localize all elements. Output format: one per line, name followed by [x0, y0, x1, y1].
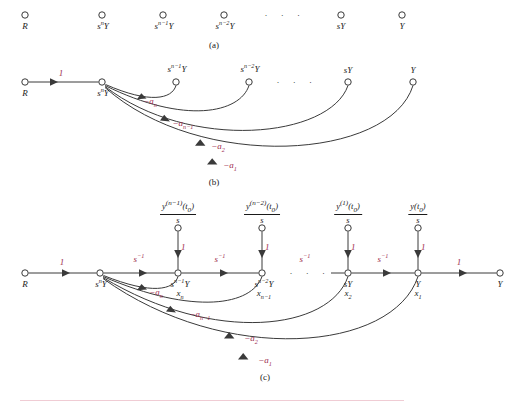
node-c-snY — [97, 270, 103, 276]
node-b-snY — [99, 79, 105, 85]
gain-c-fwd-5: s−1 — [378, 255, 389, 264]
gain-c-fwd-1: 1 — [60, 258, 65, 267]
label-b-R: R — [22, 89, 28, 98]
edge-b-fb-an1 — [105, 86, 249, 111]
edge-b-fb-a1 — [105, 86, 413, 147]
node-a-R — [22, 12, 28, 18]
gain-c-ic-4: 1 — [421, 243, 426, 252]
gain-b-a2: −a2 — [211, 142, 225, 151]
bottom-rule — [20, 400, 404, 401]
arrowhead-c-fb-a1 — [238, 353, 248, 360]
node-a-sn1Y — [160, 12, 166, 18]
arrowhead-c-2 — [139, 269, 147, 277]
label-b-Y: Y — [410, 66, 415, 75]
node-b-Y — [410, 79, 416, 85]
node-a-snY — [99, 12, 105, 18]
node-c-ic-1 — [175, 225, 181, 231]
state-c-sY: x2 — [344, 289, 351, 298]
caption-b: (b) — [209, 177, 220, 187]
arrowhead-c-3 — [220, 269, 228, 277]
gain-c-fwd-6: 1 — [457, 258, 462, 267]
label-c-Yout: Y — [497, 280, 502, 289]
edge-c-fb-a2 — [103, 277, 348, 323]
node-c-Yout — [497, 270, 503, 276]
ic-label-4: y(t0) s — [408, 200, 427, 225]
label-a-Y: Y — [399, 22, 404, 31]
label-a-R: R — [22, 22, 28, 31]
gain-c-ic-1: 1 — [181, 243, 186, 252]
node-c-sY — [345, 270, 351, 276]
state-c-sn1Y: xn — [176, 289, 183, 298]
label-c-R: R — [22, 280, 28, 289]
node-b-sY — [345, 79, 351, 85]
edge-b-fb-a2 — [105, 86, 348, 131]
state-c-Y: x1 — [414, 289, 421, 298]
node-c-sn1Y — [175, 270, 181, 276]
gain-b-an1: −an−1 — [173, 119, 194, 128]
caption-c: (c) — [260, 372, 270, 382]
arrowhead-c-fb-an — [137, 284, 147, 290]
label-a-sY: sY — [337, 22, 346, 31]
label-b-sn2Y: sn−2Y — [241, 65, 260, 74]
gain-c-fwd-2: s−1 — [134, 255, 145, 264]
caption-a: (a) — [209, 40, 219, 50]
label-c-snY: snY — [95, 280, 107, 289]
state-c-sn2Y: xn−1 — [257, 289, 271, 298]
arrowhead-c-5 — [383, 269, 391, 277]
arrowhead-c-1 — [62, 269, 70, 277]
gain-b-an: −an — [143, 97, 157, 106]
ellipsis-b: · · · — [277, 77, 318, 87]
gain-c-an: −an — [149, 288, 163, 297]
signal-flow-graph-figure: R snY sn−1Y sn−2Y sY Y · · · (a) R snY s… — [0, 0, 527, 403]
gain-c-ic-2: 1 — [265, 243, 270, 252]
ellipsis-c: · · · — [290, 268, 331, 278]
label-a-snY: snY — [97, 22, 109, 31]
arrowhead-b-a2 — [195, 139, 205, 146]
ic-label-2: y(n−2)(t0) s — [244, 200, 280, 225]
gain-c-fwd-3: s−1 — [215, 255, 226, 264]
arrowhead-b-a1 — [207, 158, 217, 164]
node-a-sn2Y — [221, 12, 227, 18]
node-c-Y — [415, 270, 421, 276]
node-b-R — [22, 79, 28, 85]
node-b-sn1Y — [173, 79, 179, 85]
node-b-sn2Y — [246, 79, 252, 85]
gain-c-fwd-4: s−1 — [300, 255, 311, 264]
label-a-sn1Y: sn−1Y — [155, 22, 174, 31]
label-a-sn2Y: sn−2Y — [216, 22, 235, 31]
gain-b-forward: 1 — [59, 69, 64, 78]
gain-c-ic-3: 1 — [351, 243, 356, 252]
arrowhead-b-forward — [50, 78, 58, 86]
label-b-sY: sY — [344, 66, 353, 75]
ic-label-3: y(1)(t0) s — [334, 200, 362, 225]
panel-a-nodes — [22, 12, 405, 18]
node-c-R — [22, 270, 28, 276]
gain-c-a2: −a2 — [244, 334, 258, 343]
label-b-sn1Y: sn−1Y — [168, 65, 187, 74]
gain-c-an1: −an−1 — [190, 310, 211, 319]
ic-label-1: y(n−1)(t0) s — [160, 200, 196, 225]
node-a-sY — [338, 12, 344, 18]
label-b-snY: snY — [97, 89, 109, 98]
node-a-Y — [399, 12, 405, 18]
gain-b-a1: −a1 — [223, 161, 237, 170]
ellipsis-a: · · · — [265, 10, 306, 20]
gain-c-a1: −a1 — [258, 356, 272, 365]
node-c-ic-3 — [345, 225, 351, 231]
arrowhead-c-6 — [459, 269, 467, 277]
node-c-ic-2 — [259, 225, 265, 231]
node-c-sn2Y — [259, 270, 265, 276]
node-c-ic-4 — [415, 225, 421, 231]
